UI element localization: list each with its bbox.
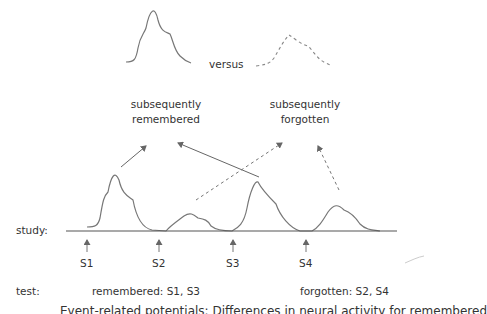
versus-label: versus [209,58,244,70]
arrow-s2-forgotten [196,143,282,200]
remembered-caption-line2: remembered [126,112,206,127]
arrow-s3-remembered [178,143,259,177]
remembered-caption: subsequently remembered [126,97,206,127]
study-row-label: study: [16,224,48,236]
stimulus-s3: S3 [226,257,239,269]
arrow-s4-forgotten [318,146,339,190]
stimulus-s1: S1 [80,257,93,269]
arrow-s1-remembered [121,146,146,167]
test-remembered: remembered: S1, S3 [92,285,200,297]
stimulus-s2: S2 [152,257,165,269]
forgotten-caption-line2: forgotten [265,112,345,127]
forgotten-caption-line1: subsequently [265,97,345,112]
forgotten-caption: subsequently forgotten [265,97,345,127]
test-row-label: test: [16,285,40,297]
remembered-waveform [126,11,191,63]
stimulus-s4: S4 [299,257,312,269]
remembered-caption-line1: subsequently [126,97,206,112]
forgotten-waveform [256,35,332,66]
test-forgotten: forgotten: S2, S4 [300,285,389,297]
caption-clipped: Event-related potentials: Differences in… [60,300,487,314]
